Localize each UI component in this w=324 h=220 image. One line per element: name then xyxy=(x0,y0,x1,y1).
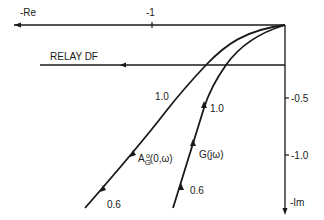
arrow-left-icon xyxy=(14,23,21,28)
ag-point-label: 0.6 xyxy=(107,200,121,210)
diagram-canvas xyxy=(0,0,324,220)
arrow-left-icon xyxy=(120,63,126,68)
imag-tick-label: -0.5 xyxy=(291,94,308,104)
arrow-up-icon xyxy=(190,139,196,146)
g-curve xyxy=(173,25,285,208)
relay-df-line xyxy=(40,63,285,68)
imag-tick-label: -1.0 xyxy=(291,151,308,161)
ag-point-label: 1.0 xyxy=(155,92,169,102)
g-curve-label: G(jω) xyxy=(199,150,223,160)
ag-curve-label: AGo(0,ω) xyxy=(138,154,173,164)
ag-curve xyxy=(85,25,285,208)
real-axis-label: -Re xyxy=(20,8,36,18)
arrow-down-icon xyxy=(283,208,288,215)
imag-axis xyxy=(283,25,290,215)
g-point-label: 0.6 xyxy=(190,186,204,196)
real-axis xyxy=(14,22,285,28)
imag-axis-label: -Im xyxy=(290,198,304,208)
relay-df-label: RELAY DF xyxy=(50,52,98,62)
real-tick-label: -1 xyxy=(146,8,155,18)
nyquist-diagram: -Re -1 -0.5 -1.0 -Im RELAY DF 1.0 0.6 AG… xyxy=(0,0,324,220)
g-point-label: 1.0 xyxy=(210,104,224,114)
